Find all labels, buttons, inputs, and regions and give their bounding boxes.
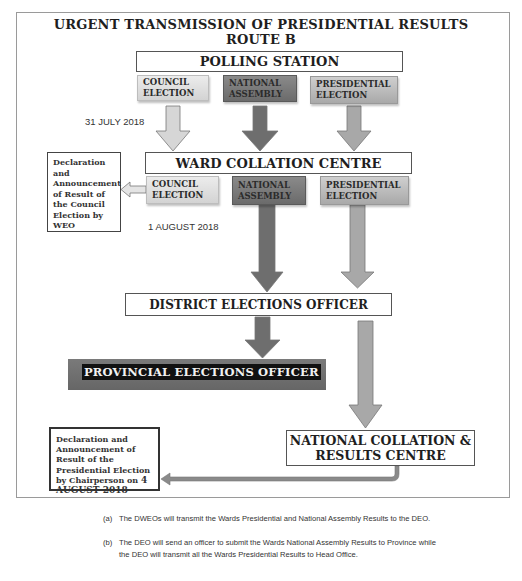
arrow-presidential-to-ncrc-icon (349, 321, 382, 428)
provincial-elections-officer-bar: PROVINCIAL ELECTIONS OFFICER (68, 359, 326, 390)
polling-council-line1: COUNCIL (143, 77, 203, 88)
arrow-council-down-icon (156, 106, 190, 151)
ward-national-line1: NATIONAL (238, 180, 300, 191)
provincial-elections-officer-label: PROVINCIAL ELECTIONS OFFICER (82, 364, 321, 380)
ward-council-election-box: COUNCIL ELECTION (146, 176, 219, 204)
presidential-declaration-box: Declaration and Announcement of Result o… (49, 427, 160, 491)
ward-council-line1: COUNCIL (152, 179, 213, 190)
ward-presidential-line1: PRESIDENTIAL (326, 180, 403, 191)
polling-national-line2: ASSEMBLY (229, 89, 291, 100)
note-a-marker: (a) (103, 513, 117, 525)
ward-national-assembly-box: NATIONAL ASSEMBLY (232, 176, 306, 205)
arrow-presidential-to-deo-icon (341, 205, 374, 288)
ward-council-line2: ELECTION (152, 190, 213, 201)
polling-station-box: POLLING STATION (136, 51, 403, 72)
polling-council-line2: ELECTION (143, 88, 203, 99)
arrow-national-to-deo-icon (251, 205, 283, 292)
polling-national-assembly-box: NATIONAL ASSEMBLY (223, 75, 297, 102)
ward-presidential-line2: ELECTION (326, 191, 403, 202)
ward-national-line2: ASSEMBLY (238, 191, 300, 202)
polling-presidential-line1: PRESIDENTIAL (316, 79, 392, 90)
ward-collation-centre-box: WARD COLLATION CENTRE (145, 152, 412, 174)
polling-national-line1: NATIONAL (229, 78, 291, 89)
presidential-declaration-date-prefix: on (127, 475, 141, 485)
polling-council-election-box: COUNCIL ELECTION (137, 75, 209, 101)
arrow-presidential-down-icon (337, 106, 371, 151)
ncrc-line1: NATIONAL COLLATION & (290, 433, 471, 448)
polling-date: 31 JULY 2018 (85, 116, 144, 127)
note-b-text: The DEO will send an officer to submit t… (117, 537, 448, 561)
ward-presidential-election-box: PRESIDENTIAL ELECTION (320, 176, 409, 205)
arrow-ncrc-to-declaration-icon (161, 466, 399, 485)
arrow-deo-to-provincial-icon (245, 317, 280, 358)
note-b: (b) The DEO will send an officer to subm… (103, 537, 448, 561)
note-b-marker: (b) (103, 537, 117, 561)
arrow-council-left-icon (121, 182, 146, 197)
national-collation-results-centre-box: NATIONAL COLLATION & RESULTS CENTRE (286, 430, 475, 466)
note-a: (a) The DWEOs will transmit the Wards Pr… (103, 513, 443, 525)
arrow-national-down-icon (242, 106, 278, 151)
polling-presidential-line2: ELECTION (316, 90, 392, 101)
ncrc-line2: RESULTS CENTRE (315, 448, 445, 463)
note-a-text: The DWEOs will transmit the Wards Presid… (117, 513, 430, 525)
district-elections-officer-box: DISTRICT ELECTIONS OFFICER (125, 293, 392, 316)
polling-presidential-election-box: PRESIDENTIAL ELECTION (310, 76, 398, 104)
council-declaration-box: Declaration and Announcement of Result o… (47, 152, 121, 232)
ward-date: 1 AUGUST 2018 (148, 221, 219, 232)
